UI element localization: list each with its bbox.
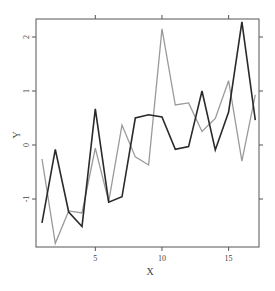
y-tick-label: 2 [22, 35, 31, 39]
y-tick-label: 1 [22, 89, 31, 93]
series-line-dark [42, 22, 255, 227]
y-tick-label: -1 [22, 196, 31, 203]
x-tick-label: 5 [93, 254, 97, 263]
series-line-light [42, 29, 255, 243]
x-tick-label: 10 [158, 254, 166, 263]
line-chart: 51015-1012 X Y [0, 0, 275, 291]
y-tick-label: 0 [22, 143, 31, 147]
y-axis-title: Y [11, 131, 22, 138]
series-layer [42, 22, 255, 243]
x-tick-label: 15 [225, 254, 233, 263]
x-axis-title: X [146, 266, 154, 277]
